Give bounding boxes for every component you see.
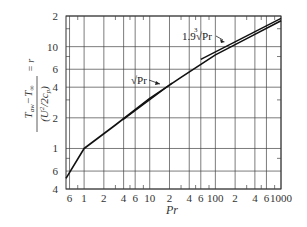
cbrt-pr-line <box>201 18 281 59</box>
y-tick-label: 2 <box>53 10 59 22</box>
series <box>66 18 281 178</box>
arrowhead-icon <box>155 81 160 85</box>
sqrt-pr-line <box>123 83 172 120</box>
y-tick-label: 4 <box>53 81 59 93</box>
recovery-factor-curve <box>66 21 281 179</box>
y-tick-label: 6 <box>53 63 59 75</box>
x-tick-label: 4 <box>186 192 192 204</box>
x-tick-label: 100 <box>207 192 224 204</box>
annotation-cbrt-body: √Pr <box>196 30 212 42</box>
x-tick-label: 2 <box>232 192 238 204</box>
x-tick-label: 4 <box>252 192 258 204</box>
svg-text:(U2/2cp): (U2/2cp) <box>38 86 52 122</box>
x-tick-label: 6 <box>198 192 204 204</box>
plot-frame <box>66 16 281 189</box>
y-tick-label: 6 <box>53 165 59 177</box>
y-tick-label: 2 <box>53 112 59 124</box>
x-tick-label: 6 <box>264 192 270 204</box>
x-tick-label: 6 <box>132 192 138 204</box>
x-tick-label: 1 <box>81 192 87 204</box>
annotation-sqrt-pr: √Pr <box>131 74 147 86</box>
y-axis-title: Taw−T∞ (U2/2cp) = r <box>22 59 52 132</box>
chart: 61246102461002461000 461246102 √Pr 1.9 3… <box>0 0 307 227</box>
y-tick-label: 10 <box>47 41 59 53</box>
ticks <box>66 16 281 189</box>
x-tick-label: 1000 <box>270 192 293 204</box>
x-tick-label: 4 <box>121 192 127 204</box>
annotation-cbrt-arrow <box>216 36 223 40</box>
y-tick-label: 1 <box>53 142 59 154</box>
x-tick-label: 2 <box>101 192 107 204</box>
x-tick-label: 6 <box>67 192 73 204</box>
svg-text:= r: = r <box>25 59 36 72</box>
x-tick-labels: 61246102461002461000 <box>67 192 293 204</box>
grid <box>66 16 281 189</box>
svg-text:Taw−T∞: Taw−T∞ <box>22 86 36 119</box>
y-tick-label: 4 <box>53 183 59 195</box>
x-tick-label: 10 <box>144 192 156 204</box>
x-axis-title: Pr <box>165 203 178 217</box>
